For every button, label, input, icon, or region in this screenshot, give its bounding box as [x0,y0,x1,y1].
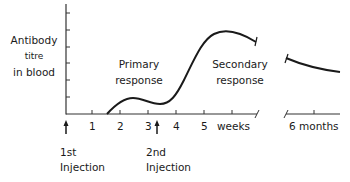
x-tick-2: 2 [117,120,124,132]
arrow-up-icon [155,120,160,134]
second-injection-label: 2nd Injection [146,146,191,173]
y-axis-label-line1: Antibody [9,34,59,46]
antibody-curve-months [286,58,340,72]
arrow-up-icon [64,120,69,134]
primary-line1: Primary [108,58,170,74]
secondary-response-label: Secondary response [204,58,276,86]
x-tick-3: 3 [145,120,152,132]
y-axis-label-line3: in blood [9,66,59,78]
x-tick-5: 5 [201,120,208,132]
x-unit-weeks: weeks [217,120,250,132]
x-tick-1: 1 [89,120,96,132]
secondary-line2: response [204,74,276,86]
inj1-line1: 1st [60,146,105,161]
primary-response-label: Primary response [108,58,170,86]
inj2-line2: Injection [146,161,191,173]
y-axis-label-line2: titre [9,50,59,62]
x-unit-months: 6 months [289,120,339,132]
inj1-line2: Injection [60,161,105,173]
x-tick-4: 4 [173,120,180,132]
first-injection-label: 1st Injection [60,146,105,173]
primary-line2: response [108,74,170,86]
inj2-line1: 2nd [146,146,191,161]
secondary-line1: Secondary [204,58,276,74]
